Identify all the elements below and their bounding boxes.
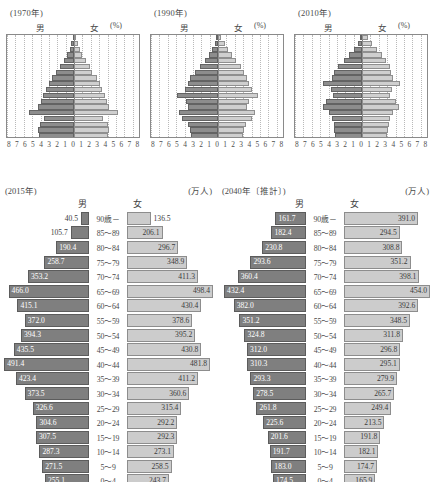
- female-bar: 395.2: [127, 329, 195, 342]
- axis-tick: 5: [255, 140, 259, 149]
- axis-tick: 8: [7, 140, 11, 149]
- male-side: 225.6: [217, 416, 306, 429]
- mini-pyramid-axis-ticks: 87654321012345678: [294, 140, 428, 149]
- age-group-label: 45～49: [306, 344, 344, 355]
- axis-tick: 2: [55, 140, 59, 149]
- pyramid-row: 491.440～44481.8: [0, 357, 216, 372]
- gridline: [124, 35, 125, 137]
- mini-bar-male: [177, 93, 218, 98]
- age-group-label: 85～89: [306, 227, 344, 238]
- mini-pyramid-sex-header: 男女(%): [150, 21, 290, 32]
- male-bar: 372.0: [25, 314, 89, 327]
- age-group-label: 5～9: [89, 461, 127, 472]
- gridline: [32, 35, 33, 137]
- female-bar: 265.7: [344, 387, 394, 400]
- female-bar: 430.4: [127, 299, 201, 312]
- unit-label: (万人): [405, 184, 429, 196]
- mini-bar-female: [362, 122, 389, 127]
- axis-tick: 8: [424, 140, 428, 149]
- female-side: 430.8: [127, 343, 216, 356]
- axis-tick: 6: [311, 140, 315, 149]
- male-side: 255.1: [0, 474, 89, 482]
- male-header: 男: [295, 197, 304, 210]
- detailed-pyramid-header: (2015年)(万人): [0, 184, 216, 197]
- female-side: 411.3: [127, 270, 216, 283]
- female-side: 308.8: [344, 241, 433, 254]
- pyramid-row: 394.350～54395.2: [0, 328, 216, 343]
- male-value-label: 372.0: [28, 317, 45, 325]
- pyramid-row: 415.160～64430.4: [0, 299, 216, 314]
- male-header: 男: [180, 21, 189, 33]
- male-side: 394.3: [0, 329, 89, 342]
- female-bar: 351.2: [344, 256, 411, 269]
- mini-bar-female: [362, 52, 382, 57]
- male-bar: 293.6: [250, 256, 306, 269]
- male-side: 432.4: [217, 285, 306, 298]
- male-side: 312.0: [217, 343, 306, 356]
- female-bar: 430.8: [127, 343, 201, 356]
- mini-bar-male: [205, 58, 218, 63]
- male-value-label: 255.1: [48, 477, 65, 482]
- pyramid-row: 307.515～19292.3: [0, 430, 216, 445]
- female-header: 女: [90, 21, 99, 33]
- female-value-label: 182.1: [358, 448, 375, 456]
- mini-bar-male: [67, 52, 74, 57]
- mini-bar-male: [39, 133, 74, 138]
- gridline: [268, 35, 269, 137]
- female-bar: 243.7: [127, 474, 169, 482]
- male-side: 435.5: [0, 343, 89, 356]
- female-value-label: 273.1: [154, 448, 171, 456]
- pyramid-row: 161.790歳－391.0: [217, 211, 433, 226]
- axis-tick: 4: [391, 140, 395, 149]
- male-value-label: 191.7: [273, 448, 290, 456]
- female-side: 292.2: [127, 416, 216, 429]
- age-group-label: 30～34: [306, 388, 344, 399]
- male-value-label: 161.7: [278, 215, 295, 223]
- axis-tick: 1: [367, 140, 371, 149]
- male-value-label: 183.0: [274, 463, 291, 471]
- male-side: 271.5: [0, 460, 89, 473]
- axis-tick: 5: [319, 140, 323, 149]
- mini-bar-female: [218, 87, 252, 92]
- female-bar: 294.5: [344, 226, 400, 239]
- mini-bar-female: [218, 127, 244, 132]
- male-value-label: 40.5: [65, 212, 81, 225]
- male-side: 324.8: [217, 329, 306, 342]
- female-bar: 174.7: [344, 460, 377, 473]
- female-value-label: 378.6: [172, 317, 189, 325]
- mini-bar-female: [362, 41, 372, 46]
- gridline: [412, 35, 413, 137]
- pyramid-row: 201.615～19191.8: [217, 430, 433, 445]
- mini-bar-male: [64, 58, 74, 63]
- detailed-pyramid-sex-header: 男女: [0, 197, 216, 211]
- male-side: 174.5: [217, 474, 306, 482]
- male-bar: 161.7: [275, 212, 306, 225]
- female-side: 191.8: [344, 431, 433, 444]
- female-value-label: 391.0: [398, 215, 415, 223]
- age-group-label: 70～74: [89, 271, 127, 282]
- male-bar: 287.3: [39, 445, 89, 458]
- mini-bar-female: [218, 75, 247, 80]
- male-value-label: 351.2: [242, 317, 259, 325]
- male-value-label: 293.6: [253, 258, 270, 266]
- gridline: [312, 35, 313, 137]
- male-value-label: 182.4: [274, 229, 291, 237]
- axis-tick: 0: [71, 140, 75, 149]
- mini-bar-female: [218, 64, 241, 69]
- axis-tick: 0: [359, 140, 363, 149]
- gridline: [176, 35, 177, 137]
- female-header: 女: [378, 21, 387, 33]
- axis-tick: 6: [23, 140, 27, 149]
- female-side: 391.0: [344, 212, 433, 225]
- mini-bar-male: [191, 133, 218, 138]
- male-value-label: 312.0: [250, 346, 267, 354]
- female-bar: 498.4: [127, 285, 213, 298]
- pyramid-row: 351.255～59348.5: [217, 313, 433, 328]
- male-bar: 312.0: [247, 343, 306, 356]
- mini-bar-female: [74, 127, 109, 132]
- mini-bar-male: [60, 64, 74, 69]
- male-side: 191.7: [217, 445, 306, 458]
- axis-tick: 8: [280, 140, 284, 149]
- male-value-label: 432.4: [227, 287, 244, 295]
- female-side: 295.1: [344, 358, 433, 371]
